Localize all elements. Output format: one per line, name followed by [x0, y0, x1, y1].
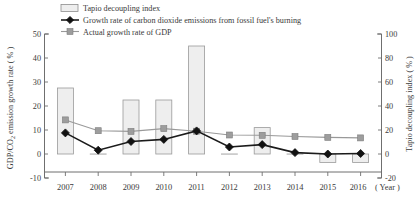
line-series-actual-gdp-growth — [62, 117, 363, 141]
x-label-2010: 2010 — [155, 183, 172, 192]
gdp-marker-2016 — [358, 135, 364, 141]
x-label-2014: 2014 — [287, 183, 305, 192]
right-tick-label-80: 80 — [385, 54, 393, 63]
left-axis-title: GDP/CO2 emission growth rate ( % ) — [6, 47, 16, 170]
legend-bar-swatch-icon — [61, 5, 78, 12]
right-axis-title-text: Tapio decoupling index ( % ) — [405, 56, 414, 152]
gdp-marker-2014 — [292, 134, 298, 140]
x-label-2016: 2016 — [350, 183, 367, 192]
right-tick-label-40: 40 — [385, 102, 393, 111]
x-label-2012: 2012 — [221, 183, 238, 192]
left-axis-title-part1: GDP/CO — [6, 139, 15, 169]
gdp-marker-2012 — [226, 132, 232, 138]
left-axis-title-part2: emission growth rate ( % ) — [6, 47, 15, 136]
right-tick-label-100: 100 — [385, 30, 397, 39]
right-tick-label-neg20: -20 — [385, 174, 396, 183]
right-tick-label-0: 0 — [385, 150, 389, 159]
chart-container: Tapio decoupling index Growth rate of ca… — [0, 0, 419, 208]
gdp-growth-polyline — [65, 120, 360, 138]
gdp-marker-2009 — [128, 128, 134, 134]
left-tick-label-20: 20 — [33, 102, 41, 111]
legend-label-0: Tapio decoupling index — [83, 4, 160, 13]
gdp-marker-2007 — [62, 117, 68, 123]
chart-canvas: Tapio decoupling index Growth rate of ca… — [0, 0, 419, 208]
x-label-2007: 2007 — [57, 183, 74, 192]
left-tick-label-10: 10 — [33, 126, 41, 135]
legend-item-tapio-decoupling-index: Tapio decoupling index — [61, 4, 160, 13]
left-axis: 50 40 30 20 10 0 -10 GDP/CO2 emission gr… — [6, 30, 49, 183]
co2-marker-2012 — [225, 143, 233, 151]
legend-diamond-marker-icon — [66, 16, 73, 23]
legend-item-co2-growth-rate: Growth rate of carbon dioxide emissions … — [61, 16, 301, 25]
co2-growth-polyline — [65, 131, 360, 154]
bar-2011 — [189, 46, 205, 154]
left-tick-label-30: 30 — [33, 78, 41, 87]
right-axis-title: Tapio decoupling index ( % ) — [405, 56, 414, 152]
line-series-co2-growth-rate — [61, 127, 364, 158]
gdp-marker-2008 — [95, 128, 101, 134]
legend-item-actual-gdp-growth: Actual growth rate of GDP — [61, 28, 172, 37]
gdp-marker-2013 — [259, 132, 265, 138]
co2-marker-2008 — [94, 146, 102, 154]
legend-square-marker-icon — [67, 29, 73, 35]
legend-label-2: Actual growth rate of GDP — [83, 28, 172, 37]
svg-text:GDP/CO2 emission growth rate (: GDP/CO2 emission growth rate ( % ) — [6, 47, 16, 170]
x-axis-unit-label: ( Year ) — [375, 183, 400, 192]
right-tick-label-20: 20 — [385, 126, 393, 135]
left-tick-label-0: 0 — [37, 150, 41, 159]
x-label-2009: 2009 — [123, 183, 140, 192]
bottom-axis: 2007 2008 2009 2010 2011 2012 2013 2014 … — [45, 172, 401, 192]
x-label-2008: 2008 — [90, 183, 107, 192]
left-tick-label-40: 40 — [33, 54, 41, 63]
chart-legend: Tapio decoupling index Growth rate of ca… — [61, 4, 301, 37]
legend-label-1: Growth rate of carbon dioxide emissions … — [83, 16, 301, 25]
gdp-marker-2010 — [161, 126, 167, 132]
x-label-2011: 2011 — [188, 183, 204, 192]
right-tick-label-60: 60 — [385, 78, 393, 87]
right-axis: 100 80 60 40 20 0 -20 Tapio decoupling i… — [377, 30, 414, 183]
x-label-2013: 2013 — [254, 183, 271, 192]
left-tick-label-50: 50 — [33, 30, 41, 39]
bar-series-tapio-decoupling-index — [57, 46, 368, 162]
left-tick-label-neg10: -10 — [30, 174, 41, 183]
co2-marker-2014 — [291, 149, 299, 157]
x-label-2015: 2015 — [319, 183, 336, 192]
gdp-marker-2015 — [325, 134, 331, 140]
